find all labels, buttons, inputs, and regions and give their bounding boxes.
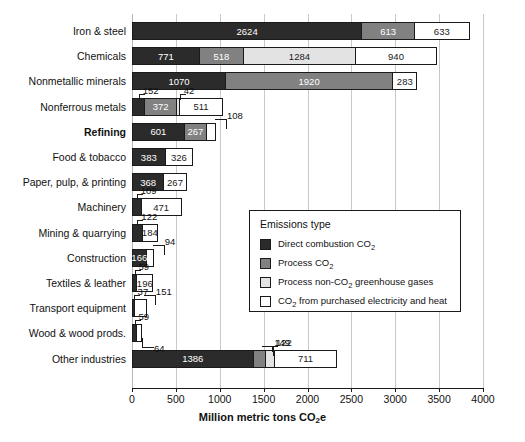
legend-item-label: CO2 from purchased electricity and heat [278,295,447,309]
x-axis-title-tail: e [320,411,326,423]
callout-leader-line [144,295,156,305]
category-label: Transport equipment [0,297,126,319]
category-label: Textiles & leather [0,272,126,294]
tick-label-3500: 3500 [427,393,450,405]
callout-leader-line [134,295,140,301]
callout-leader-line [215,119,227,129]
bar-segment-elec[interactable]: 184 [142,224,158,242]
emissions-stacked-bar-chart: Iron & steelChemicalsNonmetallic mineral… [0,0,525,442]
segment-value-label: 711 [298,353,313,364]
callout-leader-line [272,346,278,352]
bar-segment-elec[interactable]: 711 [274,350,336,368]
tick-mark-2500 [351,388,352,392]
legend-swatch-direct-icon [260,239,271,250]
bar-row[interactable]: 184 [132,224,158,242]
callout-leader-line [135,270,141,276]
bar-segment-direct[interactable]: 601 [132,123,185,141]
segment-callout-label: 108 [227,110,243,121]
category-label: Machinery [0,196,126,218]
gridline-1500 [264,14,265,388]
segment-callout-label: 109 [141,185,157,196]
bar-segment-elec[interactable]: 326 [165,148,194,166]
gridline-3000 [395,14,396,388]
bar-segment-elec[interactable]: 267 [163,173,186,191]
bar-segment-process[interactable]: 1920 [225,72,393,90]
segment-value-label: 518 [213,51,229,62]
bar-segment-process[interactable]: 372 [144,98,177,116]
bar-segment-process[interactable]: 267 [184,123,207,141]
category-label: Chemicals [0,45,126,67]
segment-value-label: 633 [434,26,450,37]
gridline-3500 [439,14,440,388]
bar-segment-elec[interactable]: 511 [179,98,224,116]
bar-row[interactable]: 2624613633 [132,22,470,40]
segment-value-label: 1386 [182,353,203,364]
bar-segment-nonco2[interactable]: 1284 [243,47,356,65]
bar-segment-process[interactable]: 518 [199,47,244,65]
callout-leader-line [153,245,165,255]
bar-segment-elec[interactable]: 283 [392,72,417,90]
callout-leader-line [139,94,145,100]
tick-label-2500: 2500 [340,393,363,405]
bar-row[interactable]: 601267 [132,123,216,141]
bar-segment-direct[interactable] [132,98,145,116]
category-label: Mining & quarrying [0,222,126,244]
segment-value-label: 613 [380,26,396,37]
category-label: Construction [0,247,126,269]
legend-swatch-nonco2-icon [260,277,271,288]
segment-value-label: 2624 [237,26,258,37]
callout-leader-line [135,320,141,326]
category-label: Other industries [0,348,126,370]
gridline-1000 [220,14,221,388]
segment-value-label: 383 [141,152,157,163]
segment-callout-label: 122 [276,337,292,348]
tick-label-4000: 4000 [471,393,494,405]
segment-value-label: 267 [188,126,204,137]
bar-segment-elec[interactable]: 940 [355,47,437,65]
bar-segment-direct[interactable]: 771 [132,47,200,65]
tick-label-1500: 1500 [252,393,275,405]
bar-segment-direct[interactable]: 2624 [132,22,362,40]
bar-row[interactable]: 7715181284940 [132,47,437,65]
callout-leader-line [137,194,143,200]
gridline-4000 [483,14,484,388]
bar-segment-process[interactable]: 613 [361,22,415,40]
segment-value-label: 771 [158,51,174,62]
bar-segment-direct[interactable]: 1386 [132,350,254,368]
callout-leader-line [180,94,186,100]
bar-segment-elec[interactable] [136,324,142,342]
legend-swatch-process-icon [260,258,271,269]
segment-value-label: 601 [150,126,166,137]
category-label: Wood & wood prods. [0,322,126,344]
bar-segment-elec[interactable]: 633 [414,22,470,40]
tick-mark-3000 [395,388,396,392]
bar-row[interactable]: 10701920283 [132,72,417,90]
tick-label-1000: 1000 [208,393,231,405]
tick-mark-3500 [439,388,440,392]
segment-callout-label: 94 [165,236,176,247]
bar-row[interactable]: 372511 [132,98,223,116]
tick-label-3000: 3000 [384,393,407,405]
tick-mark-4000 [483,388,484,392]
segment-value-label: 1920 [299,76,320,87]
bar-segment-direct[interactable]: 383 [132,148,166,166]
tick-label-500: 500 [167,393,185,405]
x-axis-title-main: Million metric tons CO [199,411,316,423]
x-axis-title: Million metric tons CO2e [0,411,525,425]
segment-value-label: 511 [193,101,208,112]
segment-value-label: 283 [397,76,413,87]
tick-mark-1500 [264,388,265,392]
legend-item-process[interactable]: Process CO2 [260,257,333,271]
segment-callout-label: 64 [154,343,165,354]
legend-title: Emissions type [260,218,331,230]
category-label: Nonmetallic minerals [0,70,126,92]
bar-row[interactable] [132,324,142,342]
legend-item-direct[interactable]: Direct combustion CO2 [260,238,375,252]
legend-item-nonco2[interactable]: Process non-CO2 greenhouse gases [260,276,433,290]
tick-mark-1000 [220,388,221,392]
category-label: Paper, pulp, & printing [0,171,126,193]
tick-mark-500 [176,388,177,392]
legend-item-elec[interactable]: CO2 from purchased electricity and heat [260,295,447,309]
gridline-2000 [308,14,309,388]
bar-row[interactable]: 383326 [132,148,193,166]
